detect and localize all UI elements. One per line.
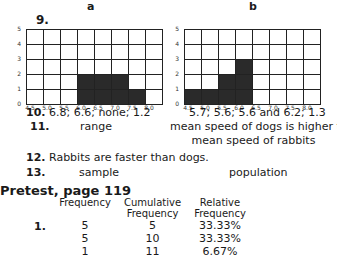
histogram-cell	[253, 60, 270, 75]
histogram-cell	[112, 45, 129, 60]
histogram-cell	[61, 45, 78, 60]
histogram-cell	[304, 75, 321, 90]
histogram-cell	[112, 30, 129, 45]
histogram-cell	[95, 60, 112, 75]
histogram-cell	[219, 75, 236, 90]
histogram-cell	[185, 45, 202, 60]
histogram-cell	[236, 90, 253, 105]
table-cell-cum: 10	[120, 233, 185, 244]
histogram-cell	[236, 75, 253, 90]
histogram-cell	[270, 45, 287, 60]
histogram-cell	[95, 45, 112, 60]
histogram-cell	[112, 60, 129, 75]
histogram-cell	[304, 30, 321, 45]
histogram-cell	[253, 75, 270, 90]
histogram-cell	[78, 60, 95, 75]
histogram-cell	[202, 30, 219, 45]
table-cell-freq: 5	[55, 220, 115, 231]
histogram-cell	[44, 90, 61, 105]
histogram-cell	[27, 60, 44, 75]
histogram-cell	[146, 75, 163, 90]
table-cell-freq: 1	[55, 246, 115, 257]
histogram-cell	[270, 75, 287, 90]
header-cumulative-line1: Cumulative	[120, 197, 185, 208]
y-tick-label: 3	[13, 55, 21, 62]
histogram-cell	[78, 90, 95, 105]
question-13-number: 13.	[26, 166, 46, 179]
histogram-cell	[129, 75, 146, 90]
histogram-cell	[202, 90, 219, 105]
histogram-cell	[253, 90, 270, 105]
histogram-cell	[27, 75, 44, 90]
pretest-item-1-number: 1.	[34, 220, 46, 233]
histogram-cell	[253, 30, 270, 45]
histogram-cell	[287, 60, 304, 75]
histogram-cell	[27, 30, 44, 45]
histogram-cell	[219, 90, 236, 105]
histogram-cell	[185, 75, 202, 90]
header-relative-line1: Relative	[190, 197, 250, 208]
y-tick-label: 2	[171, 70, 179, 77]
header-frequency: Frequency	[55, 197, 115, 208]
table-cell-rel: 33.33%	[190, 233, 250, 244]
histogram-cell	[27, 90, 44, 105]
histogram-cell	[304, 90, 321, 105]
histogram-cell	[202, 75, 219, 90]
table-cell-cum: 5	[120, 220, 185, 231]
y-tick-label: 5	[13, 25, 21, 32]
y-tick-label: 3	[171, 55, 179, 62]
y-tick-label: 4	[171, 40, 179, 47]
histogram-cell	[44, 30, 61, 45]
answer-10-a: 10. 6.8; 6.6; none; 1.2	[26, 106, 151, 119]
histogram-cell	[95, 75, 112, 90]
histogram-cell	[185, 60, 202, 75]
histogram-cell	[185, 90, 202, 105]
answer-11-b-line2: mean speed of rabbits	[170, 134, 337, 147]
header-cumulative-line2: Frequency	[120, 208, 185, 219]
histogram-cell	[61, 30, 78, 45]
question-12-number: 12.	[26, 151, 46, 164]
histogram-cell	[287, 90, 304, 105]
question-10-number: 10.	[26, 106, 46, 119]
histogram-cell	[270, 30, 287, 45]
histogram-cell	[44, 45, 61, 60]
answer-11-a: range	[80, 120, 112, 133]
histogram-cell	[219, 45, 236, 60]
answer-10-a-text: 6.8; 6.6; none; 1.2	[49, 106, 151, 119]
header-relative-frequency: Relative Frequency	[190, 197, 250, 219]
histogram-cell	[253, 45, 270, 60]
answer-12: 12. Rabbits are faster than dogs.	[26, 151, 209, 164]
answer-12-text: Rabbits are faster than dogs.	[49, 151, 209, 164]
chart-a-label: a	[87, 0, 94, 13]
histogram-cell	[146, 30, 163, 45]
question-9-number: 9.	[36, 13, 49, 27]
answer-13-a: sample	[79, 166, 119, 179]
histogram-cell	[61, 75, 78, 90]
histogram-cell	[270, 90, 287, 105]
histogram-cell	[304, 45, 321, 60]
table-cell-freq: 5	[55, 233, 115, 244]
histogram-cell	[219, 30, 236, 45]
y-tick-label: 4	[13, 40, 21, 47]
histogram-cell	[287, 30, 304, 45]
table-cell-cum: 11	[120, 246, 185, 257]
histogram-cell	[146, 90, 163, 105]
chart-b-label: b	[249, 0, 257, 13]
histogram-cell	[202, 60, 219, 75]
question-11-number: 11.	[30, 120, 50, 133]
histogram-cell	[202, 45, 219, 60]
y-tick-label: 0	[171, 100, 179, 107]
answer-13-b: population	[229, 166, 288, 179]
histogram-cell	[146, 60, 163, 75]
y-tick-label: 1	[13, 85, 21, 92]
histogram-cell	[129, 60, 146, 75]
y-tick-label: 1	[171, 85, 179, 92]
y-tick-label: 0	[13, 100, 21, 107]
y-tick-label: 5	[171, 25, 179, 32]
header-relative-line2: Frequency	[190, 208, 250, 219]
histogram-cell	[236, 60, 253, 75]
table-cell-rel: 6.67%	[190, 246, 250, 257]
answer-10-b: 5.7; 5.6; 5.6 and 6.2; 1.3	[189, 106, 326, 119]
answer-11-b-line1: mean speed of dogs is higher than	[170, 120, 337, 133]
histogram-cell	[78, 75, 95, 90]
